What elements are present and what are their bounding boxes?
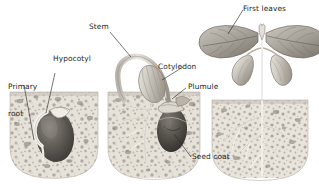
seed-germination-figure [0,0,319,187]
label-first-leaves: First leaves [243,5,286,14]
label-primary-root-line2: root [8,109,37,118]
stage-3-soil-block [212,100,308,178]
label-primary-root: Primary root [8,64,37,127]
label-stem: Stem [89,23,109,32]
label-plumule: Plumule [188,83,218,92]
primary-root-tip [42,146,43,160]
label-cotyledon: Cotyledon [158,63,196,72]
label-primary-root-line1: Primary [8,82,37,91]
label-seed-coat: Seed coat [192,153,230,162]
stage-2-soil-block [108,92,200,178]
label-hypocotyl: Hypocotyl [53,55,91,64]
